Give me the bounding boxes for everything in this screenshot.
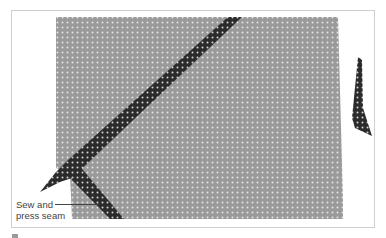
annotation-line-2: press seam	[16, 210, 65, 221]
annotation-leader-line	[55, 204, 99, 205]
bias-strip-right-fold	[352, 57, 372, 136]
figure-number-mark	[12, 234, 18, 238]
seam-annotation: Sew and press seam	[16, 199, 65, 221]
